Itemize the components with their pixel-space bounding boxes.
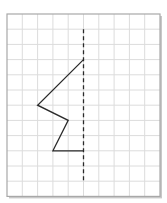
grid-diagram [0,0,167,203]
